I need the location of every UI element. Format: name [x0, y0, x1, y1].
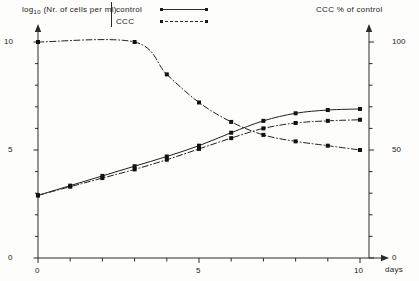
data-point-marker: [294, 121, 298, 125]
data-point-marker: [197, 147, 201, 151]
y-axis-left-arrow: [35, 24, 41, 32]
series-line-2: [38, 120, 360, 196]
data-point-marker: [36, 40, 40, 44]
data-point-marker: [165, 158, 169, 162]
axis-layer: [34, 24, 390, 263]
data-point-marker: [261, 126, 265, 130]
series-2: [36, 118, 362, 198]
chart-page: log10 (Nr. of cells per ml) control CCC …: [0, 0, 419, 281]
data-point-marker: [294, 139, 298, 143]
data-point-marker: [294, 111, 298, 115]
series-line-3: [38, 40, 360, 150]
data-point-marker: [326, 144, 330, 148]
series-layer: [36, 40, 362, 198]
data-point-marker: [261, 133, 265, 137]
data-point-marker: [100, 176, 104, 180]
series-3: [36, 40, 362, 152]
plot-area: [0, 0, 419, 281]
data-point-marker: [358, 107, 362, 111]
data-point-marker: [36, 193, 40, 197]
data-point-marker: [358, 118, 362, 122]
data-point-marker: [326, 119, 330, 123]
data-point-marker: [133, 167, 137, 171]
data-point-marker: [326, 108, 330, 112]
x-axis-arrow: [381, 255, 389, 261]
series-1: [36, 107, 362, 197]
data-point-marker: [229, 136, 233, 140]
data-point-marker: [133, 40, 137, 44]
data-point-marker: [229, 131, 233, 135]
data-point-marker: [197, 100, 201, 104]
data-point-marker: [68, 185, 72, 189]
data-point-marker: [229, 120, 233, 124]
data-point-marker: [261, 119, 265, 123]
data-point-marker: [358, 148, 362, 152]
data-point-marker: [165, 72, 169, 76]
y-axis-right-arrow: [366, 24, 372, 32]
